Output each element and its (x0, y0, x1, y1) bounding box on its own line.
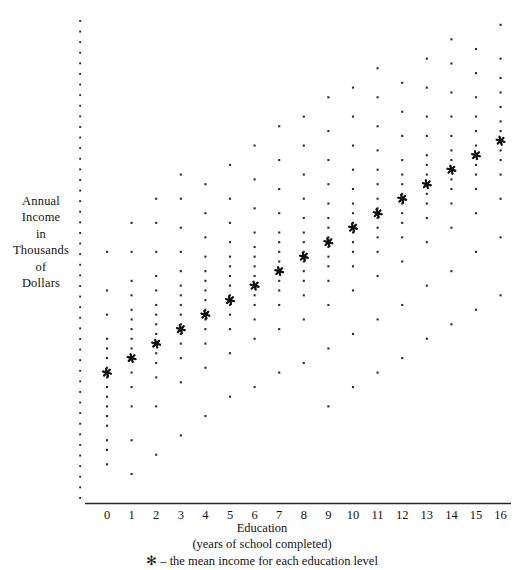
y-axis-dot (79, 41, 81, 43)
data-point (475, 96, 477, 98)
data-point (426, 164, 428, 166)
y-axis-dot (79, 486, 81, 488)
data-point (131, 309, 133, 311)
data-point (278, 372, 280, 374)
data-point (131, 405, 133, 407)
data-point (401, 222, 403, 224)
data-point (180, 381, 182, 383)
y-axis-dot (79, 444, 81, 446)
mean-marker (398, 195, 406, 203)
data-point (229, 256, 231, 258)
y-axis-dot (79, 200, 81, 202)
data-point (500, 77, 502, 79)
mean-marker (374, 209, 382, 217)
legend-note: ✻ – the mean income for each education l… (0, 553, 524, 569)
data-point (426, 116, 428, 118)
data-point (327, 183, 329, 185)
data-point (131, 294, 133, 296)
data-point (303, 198, 305, 200)
data-point (278, 231, 280, 233)
y-axis-title-line-1: Annual (8, 193, 74, 209)
data-point (303, 241, 305, 243)
data-point (155, 323, 157, 325)
data-point (401, 111, 403, 113)
data-point (155, 362, 157, 364)
data-point (475, 174, 477, 176)
y-axis-dot (79, 412, 81, 414)
mean-marker (201, 311, 209, 319)
data-point (426, 285, 428, 287)
y-axis-dot (79, 179, 81, 181)
data-point (180, 270, 182, 272)
data-point (229, 265, 231, 267)
data-point (303, 217, 305, 219)
data-point (426, 154, 428, 156)
data-point (278, 125, 280, 127)
data-point (155, 275, 157, 277)
y-axis-dot (79, 168, 81, 170)
data-point (352, 251, 354, 253)
y-axis-dot (79, 285, 81, 287)
data-point (204, 256, 206, 258)
y-axis-dot (79, 62, 81, 64)
data-point (500, 91, 502, 93)
data-point (106, 357, 108, 359)
data-point (180, 357, 182, 359)
data-point (450, 159, 452, 161)
data-point (327, 130, 329, 132)
data-point (278, 260, 280, 262)
data-point (204, 270, 206, 272)
data-point (377, 169, 379, 171)
data-point (475, 188, 477, 190)
data-point (131, 338, 133, 340)
data-point (500, 174, 502, 176)
data-point (327, 347, 329, 349)
data-point (229, 164, 231, 166)
y-axis-dot (79, 94, 81, 96)
data-point (278, 159, 280, 161)
data-point (352, 241, 354, 243)
data-point (204, 367, 206, 369)
data-point (303, 174, 305, 176)
mean-marker (497, 137, 505, 145)
data-point (475, 251, 477, 253)
y-axis-dot (79, 306, 81, 308)
data-point (155, 352, 157, 354)
data-point (401, 357, 403, 359)
data-point (500, 159, 502, 161)
data-point (352, 169, 354, 171)
data-point (106, 449, 108, 451)
data-point (278, 280, 280, 282)
y-axis-dot (79, 243, 81, 245)
x-axis-subtitle: (years of school completed) (0, 537, 524, 552)
data-point (155, 405, 157, 407)
y-axis-dot (79, 370, 81, 372)
data-point (204, 415, 206, 417)
data-point (155, 198, 157, 200)
data-point (180, 251, 182, 253)
data-point (155, 314, 157, 316)
data-point (500, 236, 502, 238)
data-point (229, 222, 231, 224)
data-point (254, 231, 256, 233)
data-point (180, 343, 182, 345)
data-point (500, 149, 502, 151)
data-point (303, 116, 305, 118)
data-point (426, 87, 428, 89)
y-axis-dot (79, 433, 81, 435)
data-point (155, 304, 157, 306)
data-point (303, 294, 305, 296)
data-point (278, 241, 280, 243)
mean-marker (251, 282, 259, 290)
data-point (426, 193, 428, 195)
y-axis-title-line-5: of (8, 259, 74, 275)
data-point (278, 328, 280, 330)
mean-marker (324, 238, 332, 246)
data-point (500, 24, 502, 26)
data-point (155, 376, 157, 378)
data-point (180, 294, 182, 296)
data-point (500, 106, 502, 108)
data-point (229, 352, 231, 354)
data-point (401, 174, 403, 176)
data-point (352, 116, 354, 118)
